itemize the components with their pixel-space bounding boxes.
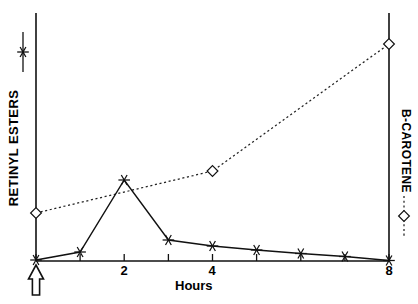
right-axis-title: B-CAROTENE	[393, 96, 418, 206]
x-tick-label-2: 2	[114, 264, 134, 277]
series-b-carotene	[31, 39, 395, 219]
data-point-marker	[207, 241, 219, 251]
x-axis-ticks	[36, 254, 389, 261]
x-axis-title: Hours	[175, 279, 213, 292]
right-axis-title-text: B-CAROTENE	[400, 109, 412, 193]
data-point-marker	[207, 166, 218, 177]
dose-arrow-icon	[29, 265, 44, 295]
legend-retinyl-esters	[17, 32, 29, 72]
chart-figure: RETINYL ESTERS B-CAROTENE 2 4 8 Hours	[0, 0, 418, 304]
retinyl-esters-markers	[30, 175, 395, 266]
series-retinyl-esters	[30, 175, 395, 266]
left-axis-title-text: RETINYL ESTERS	[7, 90, 20, 207]
x-tick-label-8: 8	[379, 264, 399, 277]
data-point-marker	[163, 235, 175, 245]
data-point-marker	[118, 175, 130, 185]
chart-plot-area	[0, 0, 418, 304]
x-tick-label-4: 4	[202, 264, 222, 277]
legend-diamond-icon	[399, 211, 410, 222]
b-carotene-markers	[31, 39, 395, 219]
data-point-marker	[384, 39, 395, 50]
b-carotene-line	[36, 44, 389, 213]
data-point-marker	[31, 208, 42, 219]
axis-lines	[36, 13, 389, 261]
left-axis-title: RETINYL ESTERS	[0, 88, 26, 208]
data-point-marker	[251, 245, 263, 255]
retinyl-esters-line	[36, 180, 389, 261]
